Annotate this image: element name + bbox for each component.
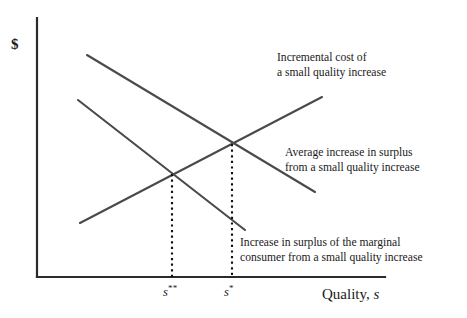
x-axis-title-text: Quality, (322, 286, 370, 302)
annotation-incremental-cost: Incremental cost of a small quality incr… (277, 51, 386, 81)
x-tick-superscript-s-double-star: ** (168, 283, 178, 293)
annotation-average-increase-in-surplus: Average increase in surplus from a small… (285, 146, 420, 176)
annotation-marginal-consumer-line2: consumer from a small quality increase (240, 251, 423, 266)
x-tick-label-s-single-star: s* (224, 283, 234, 300)
annotation-average-surplus-line2: from a small quality increase (285, 161, 420, 176)
x-tick-label-s-double-star: s** (163, 283, 178, 300)
annotation-average-surplus-line1: Average increase in surplus (285, 146, 420, 161)
annotation-marginal-consumer-line1: Increase in surplus of the marginal (240, 236, 423, 251)
x-axis-title: Quality, s (322, 285, 379, 304)
annotation-incremental-cost-line2: a small quality increase (277, 66, 386, 81)
annotation-incremental-cost-line1: Incremental cost of (277, 51, 386, 66)
x-axis-title-variable: s (374, 286, 380, 302)
y-axis-label: $ (11, 35, 19, 54)
x-tick-superscript-s-single-star: * (229, 283, 234, 293)
figure-container: $ Quality, s Incremental cost of a small… (0, 0, 467, 318)
annotation-marginal-consumer-surplus: Increase in surplus of the marginal cons… (240, 236, 423, 266)
